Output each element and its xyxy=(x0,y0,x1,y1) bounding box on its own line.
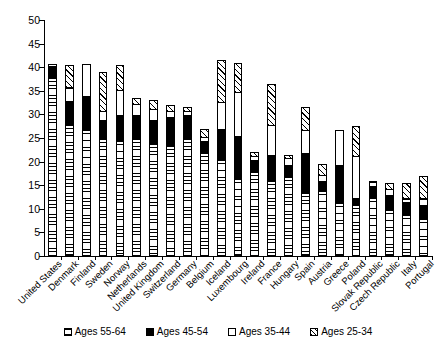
bar-segment xyxy=(402,183,411,200)
bar-column[interactable] xyxy=(48,65,57,256)
bar-segment xyxy=(267,180,276,256)
bar-group xyxy=(44,20,432,256)
bar-segment xyxy=(234,92,243,137)
bar-segment xyxy=(419,176,428,200)
legend-item[interactable]: Ages 55-64 xyxy=(64,326,126,337)
bar-segment xyxy=(116,65,125,91)
y-tick-label: 20 xyxy=(28,156,40,168)
bar-column[interactable] xyxy=(149,101,158,256)
bar-column[interactable] xyxy=(284,155,293,256)
y-tick-label: 25 xyxy=(28,132,40,144)
bar-segment xyxy=(200,152,209,256)
bar-segment xyxy=(183,138,192,256)
y-tick-label: 5 xyxy=(34,226,40,238)
bar-column[interactable] xyxy=(318,165,327,256)
chart-legend: Ages 55-64Ages 45-54Ages 35-44Ages 25-34 xyxy=(0,326,436,337)
legend-label: Ages 35-44 xyxy=(239,326,290,337)
legend-item[interactable]: Ages 35-44 xyxy=(228,326,290,337)
bar-column[interactable] xyxy=(419,177,428,256)
bar-column[interactable] xyxy=(267,85,276,256)
bar-column[interactable] xyxy=(250,153,259,256)
bar-segment xyxy=(166,118,175,146)
bar-segment xyxy=(301,107,310,131)
bar-segment xyxy=(82,64,91,97)
bar-segment xyxy=(267,155,276,181)
bar-segment xyxy=(48,77,57,256)
bar-column[interactable] xyxy=(99,73,108,256)
bar-segment xyxy=(132,115,141,139)
y-tick-label: 30 xyxy=(28,108,40,120)
legend-label: Ages 55-64 xyxy=(75,326,126,337)
bar-segment xyxy=(234,178,243,256)
bar-segment xyxy=(217,129,226,160)
legend-swatch-icon xyxy=(146,328,154,336)
y-tick-label: 15 xyxy=(28,179,40,191)
bar-segment xyxy=(65,101,74,125)
bar-segment xyxy=(369,197,378,256)
bar-column[interactable] xyxy=(234,63,243,256)
bar-segment xyxy=(217,102,226,130)
legend-label: Ages 25-34 xyxy=(321,326,372,337)
legend-label: Ages 45-54 xyxy=(157,326,208,337)
bar-segment xyxy=(352,126,361,157)
bar-segment xyxy=(65,124,74,256)
bar-column[interactable] xyxy=(116,66,125,256)
stacked-bar-chart: 05101520253035404550 United StatesDenmar… xyxy=(0,0,436,350)
bar-segment xyxy=(99,120,108,139)
y-tick-label: 35 xyxy=(28,85,40,97)
bar-segment xyxy=(385,209,394,256)
x-tick-mark xyxy=(432,256,433,260)
bar-column[interactable] xyxy=(335,131,344,256)
bar-segment xyxy=(116,115,125,141)
bar-column[interactable] xyxy=(65,66,74,256)
bar-segment xyxy=(116,140,125,256)
bar-column[interactable] xyxy=(352,127,361,256)
x-axis-line xyxy=(44,256,432,257)
bar-segment xyxy=(335,202,344,256)
bar-segment xyxy=(149,143,158,256)
bar-segment xyxy=(250,171,259,256)
bar-column[interactable] xyxy=(217,61,226,256)
bar-segment xyxy=(267,84,276,126)
bar-segment xyxy=(267,125,276,156)
bar-segment xyxy=(335,130,344,165)
legend-swatch-icon xyxy=(310,328,318,336)
legend-item[interactable]: Ages 45-54 xyxy=(146,326,208,337)
bar-segment xyxy=(385,195,394,209)
bar-column[interactable] xyxy=(183,108,192,256)
bar-column[interactable] xyxy=(301,108,310,256)
bar-column[interactable] xyxy=(166,106,175,256)
bar-segment xyxy=(318,190,327,256)
bar-segment xyxy=(65,65,74,89)
bar-segment xyxy=(234,136,243,178)
bar-segment xyxy=(149,120,158,144)
bar-segment xyxy=(301,153,310,193)
legend-swatch-icon xyxy=(228,328,236,336)
bar-segment xyxy=(116,90,125,116)
legend-swatch-icon xyxy=(64,328,72,336)
bar-column[interactable] xyxy=(132,99,141,256)
bar-segment xyxy=(301,130,310,154)
y-tick-label: 40 xyxy=(28,61,40,73)
bar-segment xyxy=(419,205,428,219)
y-tick-label: 45 xyxy=(28,38,40,50)
bar-segment xyxy=(419,218,428,256)
bar-segment xyxy=(65,88,74,102)
bar-segment xyxy=(132,138,141,256)
y-tick-label: 0 xyxy=(34,250,40,262)
legend-item[interactable]: Ages 25-34 xyxy=(310,326,372,337)
bar-segment xyxy=(166,145,175,256)
bar-segment xyxy=(234,63,243,94)
bar-column[interactable] xyxy=(369,181,378,256)
x-axis-labels: United StatesDenmarkFinlandSwedenNorwayN… xyxy=(44,258,432,328)
y-tick-label: 10 xyxy=(28,203,40,215)
bar-column[interactable] xyxy=(385,184,394,256)
bar-segment xyxy=(82,129,91,256)
y-tick-label: 50 xyxy=(28,14,40,26)
bar-column[interactable] xyxy=(82,65,91,256)
bar-segment xyxy=(402,214,411,256)
bar-column[interactable] xyxy=(402,184,411,256)
bar-column[interactable] xyxy=(200,129,209,256)
bar-segment xyxy=(335,165,344,203)
bar-segment xyxy=(183,115,192,139)
